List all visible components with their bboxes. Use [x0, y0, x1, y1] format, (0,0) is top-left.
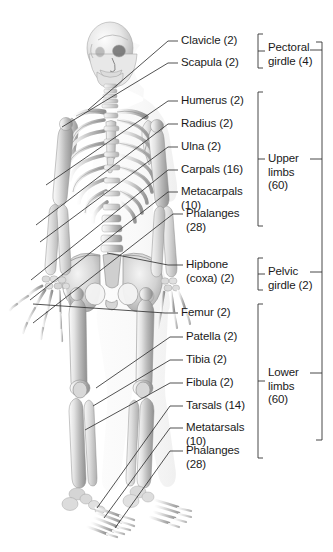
bone-label-fibula: Fibula (2)	[186, 376, 234, 390]
group-label-upper-limbs: Upperlimbs(60)	[268, 152, 299, 193]
bone-label-text: Tarsals (14)	[186, 399, 245, 411]
group-label-pectoral-girdle: Pectoralgirdle (4)	[268, 41, 312, 68]
skull	[87, 22, 137, 88]
group-label-text: Pectoral	[268, 41, 309, 53]
group-label-text: limbs	[268, 380, 294, 392]
bone-label-text: Tibia (2)	[186, 353, 227, 365]
bone-label-text: Patella (2)	[186, 330, 237, 342]
bone-label-text-second-line: (28)	[186, 221, 206, 233]
outer-bracket	[310, 42, 322, 440]
left-foot-bones	[62, 488, 134, 537]
group-label-text: girdle (4)	[268, 55, 312, 67]
bone-label-femur: Femur (2)	[181, 306, 231, 320]
bone-label-radius: Radius (2)	[181, 117, 233, 131]
bone-label-phalanges-foot: Phalanges(28)	[186, 444, 239, 471]
bone-label-text: Phalanges	[186, 444, 239, 456]
bone-label-tibia: Tibia (2)	[186, 353, 227, 367]
bone-label-text: Scapula (2)	[181, 56, 239, 68]
outer-bracket-spine	[316, 42, 322, 440]
bone-label-text: Carpals (16)	[181, 163, 243, 175]
bone-label-humerus: Humerus (2)	[181, 94, 244, 108]
bone-label-tarsals: Tarsals (14)	[186, 399, 245, 413]
bone-label-text: Metatarsals	[186, 421, 244, 433]
bone-label-text-second-line: (coxa) (2)	[186, 272, 234, 284]
bone-label-text: Femur (2)	[181, 306, 231, 318]
group-label-text: (60)	[268, 393, 288, 405]
group-label-text: Pelvic	[268, 265, 298, 277]
group-label-text: girdle (2)	[268, 279, 312, 291]
bone-label-text: Humerus (2)	[181, 94, 244, 106]
bone-label-text: Ulna (2)	[181, 140, 221, 152]
bone-label-text: Metacarpals	[181, 185, 243, 197]
bone-label-text: Radius (2)	[181, 117, 233, 129]
bone-label-phalanges-hand: Phalanges(28)	[186, 207, 239, 234]
group-label-text: (60)	[268, 179, 288, 191]
bone-label-hipbone: Hipbone(coxa) (2)	[186, 258, 234, 285]
group-label-lower-limbs: Lowerlimbs(60)	[268, 366, 299, 407]
group-brackets	[258, 34, 265, 458]
bone-label-ulna: Ulna (2)	[181, 140, 221, 154]
bone-label-carpals: Carpals (16)	[181, 163, 243, 177]
skeleton-diagram: Clavicle (2)Scapula (2)Humerus (2)Radius…	[0, 0, 333, 552]
group-label-pelvic-girdle: Pelvicgirdle (2)	[268, 265, 312, 292]
bone-label-text: Fibula (2)	[186, 376, 234, 388]
group-label-text: Upper	[268, 152, 299, 164]
bone-label-text-second-line: (28)	[186, 458, 206, 470]
bone-label-text: Hipbone	[186, 258, 228, 270]
group-label-text: limbs	[268, 166, 294, 178]
bone-label-text: Clavicle (2)	[181, 34, 237, 46]
metatarsal-bones	[88, 508, 121, 534]
bone-label-patella: Patella (2)	[186, 330, 237, 344]
bone-label-text: Phalanges	[186, 207, 239, 219]
group-label-text: Lower	[268, 366, 299, 378]
bone-label-scapula: Scapula (2)	[181, 56, 239, 70]
bone-label-clavicle: Clavicle (2)	[181, 34, 237, 48]
